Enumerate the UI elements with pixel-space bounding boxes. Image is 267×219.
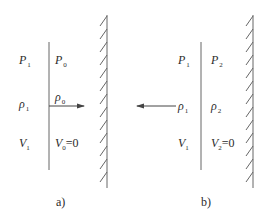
pressure-left-a: P1 xyxy=(18,53,31,69)
velocity-right-b: V2=0 xyxy=(211,136,235,152)
wall-hatched-icon-b xyxy=(246,15,253,188)
velocity-left-b: V1 xyxy=(178,136,189,152)
density-left-b: ρ1 xyxy=(177,99,189,115)
velocity-right-a: V0=0 xyxy=(55,136,79,152)
pressure-right-b: P2 xyxy=(210,53,223,69)
density-right-a: ρ0 xyxy=(54,90,66,106)
caption-a: a) xyxy=(56,195,65,209)
pressure-right-a: P0 xyxy=(54,53,67,69)
panel-a: P1 ρ1 V1 P0 ρ0 V0=0 a) xyxy=(18,15,107,209)
shock-wall-diagram: P1 ρ1 V1 P0 ρ0 V0=0 a) P1 ρ1 xyxy=(0,0,267,219)
density-right-b: ρ2 xyxy=(210,99,222,115)
density-left-a: ρ1 xyxy=(18,97,30,113)
pressure-left-b: P1 xyxy=(177,53,190,69)
caption-b: b) xyxy=(201,195,211,209)
wall-hatched-icon-a xyxy=(100,15,107,188)
velocity-left-a: V1 xyxy=(19,136,30,152)
panel-b: P1 ρ1 V1 P2 ρ2 V2=0 b) xyxy=(137,15,253,209)
